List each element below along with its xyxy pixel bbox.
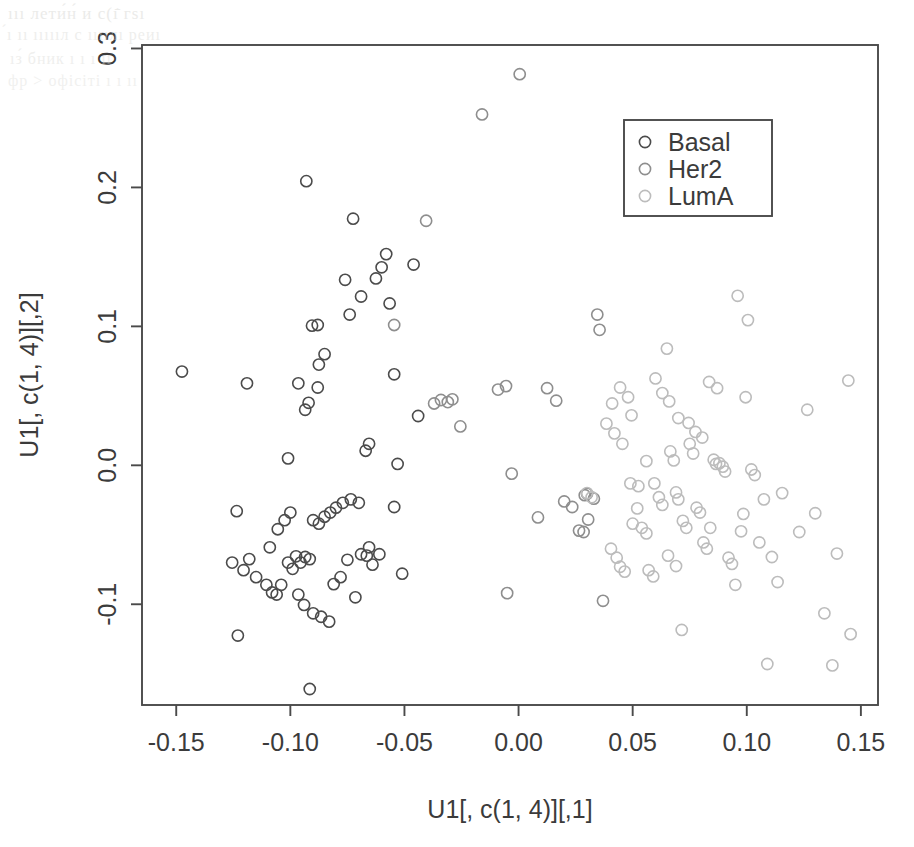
x-axis-title: U1[, c(1, 4)][,1] [427,795,592,823]
data-point [681,522,692,533]
data-point [376,262,387,273]
data-point [740,392,751,403]
legend-label-her2: Her2 [668,155,722,183]
data-point [677,515,688,526]
data-point [264,542,275,553]
data-point [592,309,603,320]
scatter-plot-figure: ııı лети́н́ и с(ı̄̇ гѕı́ı ıı ıııııл с ıı… [0,0,914,847]
data-point [777,488,788,499]
data-point [626,410,637,421]
data-point [244,554,255,565]
data-point [772,576,783,587]
data-point [594,324,605,335]
data-point [300,404,311,415]
data-point [232,630,243,641]
legend: BasalHer2LumA [624,120,772,216]
data-point [328,579,339,590]
data-point [355,291,366,302]
data-point [381,249,392,260]
data-point [758,494,769,505]
data-point [279,515,290,526]
data-point [661,343,672,354]
data-point [532,512,543,523]
data-point [389,319,400,330]
data-point [506,468,517,479]
data-point [363,438,374,449]
y-axis-title: U1[, c(1, 4)][,2] [15,292,43,457]
data-point [819,608,830,619]
data-point [342,554,353,565]
data-point [670,560,681,571]
data-point [389,501,400,512]
y-axis-tick-label: 0.0 [93,448,121,483]
x-axis-tick-label: 0.00 [494,728,543,756]
data-point [502,588,513,599]
data-point [293,589,304,600]
data-point [754,537,765,548]
data-point [301,176,312,187]
x-axis-tick-label: 0.05 [608,728,657,756]
data-point [831,548,842,559]
data-point [704,376,715,387]
y-axis-tick-label: 0.2 [93,170,121,205]
data-point [730,579,741,590]
data-point [845,629,856,640]
data-point [766,551,777,562]
data-point [762,658,773,669]
data-point [673,494,684,505]
data-point [664,396,675,407]
data-point [335,572,346,583]
data-point [360,445,371,456]
data-point [285,507,296,518]
x-axis-tick-label: -0.10 [262,728,319,756]
data-point [227,557,238,568]
data-point [389,369,400,380]
data-point [241,378,252,389]
data-point [559,496,570,507]
data-point [632,503,643,514]
data-point [617,438,628,449]
data-point [802,404,813,415]
data-point [282,453,293,464]
data-point [732,290,743,301]
data-point [374,549,385,560]
data-point [712,383,723,394]
data-point [649,478,660,489]
data-point [607,398,618,409]
data-point [408,259,419,270]
x-axis-tick-label: -0.05 [376,728,433,756]
data-point [623,392,634,403]
data-point [676,624,687,635]
data-point [350,592,361,603]
data-point [601,418,612,429]
legend-label-luma: LumA [668,182,734,210]
y-axis-tick-label: 0.3 [93,31,121,66]
data-point [421,215,432,226]
data-point [312,382,323,393]
x-axis-tick-label: -0.15 [148,728,205,756]
data-point [293,378,304,389]
data-point [413,410,424,421]
data-point [397,568,408,579]
data-point [662,550,673,561]
data-point [567,501,578,512]
data-point [843,375,854,386]
data-point [742,315,753,326]
data-point [176,366,187,377]
data-point [827,660,838,671]
data-point [551,395,562,406]
data-point [261,579,272,590]
data-point [609,428,620,439]
y-axis-tick-label: 0.1 [93,309,121,344]
data-point [541,383,552,394]
x-axis-tick-label: 0.10 [722,728,771,756]
data-point [348,213,359,224]
data-point [367,559,378,570]
data-point [392,458,403,469]
series-group-luma [581,290,856,671]
series-group-basal [176,176,423,695]
y-axis-tick-label: -0.1 [93,583,121,626]
data-point [231,506,242,517]
data-point [514,69,525,80]
data-point [735,526,746,537]
